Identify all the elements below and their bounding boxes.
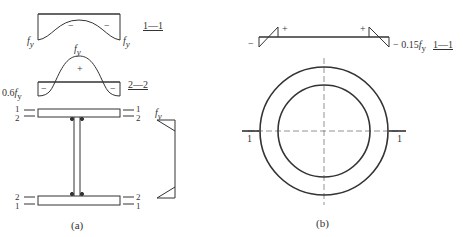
sign-minus-left-2-2: −: [41, 84, 47, 94]
section-label-2-2: 2—2: [128, 80, 148, 90]
circular-tube-section: [242, 58, 406, 205]
marker-right-1-b: 1: [397, 134, 402, 144]
caption-b: (b): [316, 218, 329, 228]
value-fy-web: fy: [155, 108, 162, 121]
marker-bottom-right-1: 1: [136, 201, 141, 211]
value-minus-0-15fy: − 0.15fy: [393, 40, 426, 53]
stress-diagram-2-2: [38, 56, 120, 96]
sign-plus-left-b: +: [282, 24, 288, 34]
section-label-1-1: 1—1: [143, 21, 163, 31]
web-stress-diagram: [157, 120, 175, 198]
section-label-b-1-1: 1—1: [433, 40, 453, 50]
sign-minus-right-2-2: −: [110, 84, 116, 94]
marker-bottom-left-1: 1: [15, 201, 20, 211]
marker-top-right-2: 2: [136, 113, 141, 123]
value-fy-right-1-1: fy: [123, 36, 130, 49]
i-beam-section: [24, 109, 134, 205]
diagram-canvas: [0, 0, 463, 237]
sign-plus-right-b: +: [360, 24, 366, 34]
stress-diagram-b: [259, 27, 389, 47]
value-0-6fy: 0.6fy: [2, 88, 22, 101]
caption-a: (a): [71, 220, 83, 230]
value-fy-peak-2-2: fy: [74, 44, 81, 57]
sign-minus-left-b: −: [248, 39, 254, 49]
sign-plus-2-2: +: [77, 64, 83, 74]
sign-minus-left-1-1: −: [68, 21, 74, 31]
marker-top-left-2: 2: [15, 113, 20, 123]
marker-left-1-b: 1: [247, 134, 252, 144]
sign-minus-right-1-1: −: [104, 21, 110, 31]
value-fy-left-1-1: fy: [27, 36, 34, 49]
